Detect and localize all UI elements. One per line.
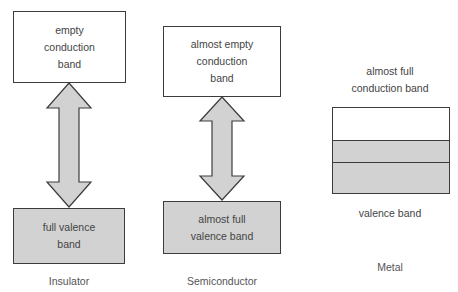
semiconductor-conduction-label-2: conduction [191,53,253,70]
metal-valence-region [333,162,449,193]
insulator-valence-band: full valence band [13,208,125,264]
metal-conduction-label: almost full conduction band [320,63,458,97]
semiconductor-caption: Semiconductor [163,275,281,287]
semiconductor-valence-label-1: almost full [191,211,253,228]
metal-conduction-label-1: almost full [320,63,458,80]
metal-band-box [332,107,450,194]
insulator-conduction-band: empty conduction band [13,11,126,83]
semiconductor-conduction-label-1: almost empty [191,36,253,53]
insulator-valence-label-2: band [43,236,96,253]
semiconductor-valence-band: almost full valence band [163,201,281,254]
metal-caption: Metal [320,261,458,273]
metal-empty-conduction-region [333,108,449,140]
semiconductor-conduction-band: almost empty conduction band [163,26,281,97]
insulator-caption: Insulator [13,275,125,287]
insulator-band-gap-arrow-icon [46,83,92,208]
metal-valence-label: valence band [320,205,458,222]
semiconductor-conduction-label-3: band [191,70,253,87]
metal-filled-conduction-region [333,140,449,162]
insulator-conduction-label-2: conduction [44,39,95,56]
insulator-valence-label-1: full valence [43,219,96,236]
semiconductor-band-gap-arrow-icon [199,97,245,201]
semiconductor-valence-label-2: valence band [191,228,253,245]
metal-conduction-label-2: conduction band [320,80,458,97]
insulator-conduction-label-3: band [44,56,95,73]
insulator-conduction-label-1: empty [44,22,95,39]
